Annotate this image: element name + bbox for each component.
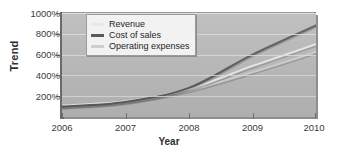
series-line-shadow bbox=[62, 53, 316, 108]
legend-item-cost-of-sales: Cost of sales bbox=[91, 30, 190, 40]
x-tick-mark bbox=[315, 113, 316, 119]
legend-label: Operating expenses bbox=[109, 41, 190, 51]
x-tick-label: 2009 bbox=[231, 122, 275, 133]
x-tick-label: 2006 bbox=[40, 122, 84, 133]
x-tick-mark bbox=[189, 113, 190, 119]
x-tick-label: 2010 bbox=[292, 122, 336, 133]
x-tick-mark bbox=[253, 113, 254, 119]
y-tick-label: 200% bbox=[12, 92, 60, 101]
gridline bbox=[62, 75, 316, 76]
legend-item-revenue: Revenue bbox=[91, 19, 190, 29]
line-chart: Trend 1000% 800% 600% 400% 200% Revenue bbox=[0, 0, 338, 163]
x-tick-mark bbox=[62, 113, 63, 119]
legend-swatch-icon bbox=[91, 34, 104, 37]
legend-label: Cost of sales bbox=[109, 30, 161, 40]
legend-swatch-icon bbox=[91, 23, 104, 26]
gridline bbox=[62, 96, 316, 97]
x-tick-label: 2007 bbox=[104, 122, 148, 133]
x-tick-mark bbox=[126, 113, 127, 119]
legend-label: Revenue bbox=[109, 19, 145, 29]
series-line-operating-expenses bbox=[62, 52, 316, 107]
y-tick-label: 600% bbox=[12, 50, 60, 59]
y-tick-label: 400% bbox=[12, 71, 60, 80]
legend-item-operating-expenses: Operating expenses bbox=[91, 41, 190, 51]
x-tick-label: 2008 bbox=[167, 122, 211, 133]
legend: Revenue Cost of sales Operating expenses bbox=[86, 14, 196, 56]
legend-swatch-icon bbox=[91, 45, 104, 48]
y-tick-label: 800% bbox=[12, 29, 60, 38]
y-tick-label: 1000% bbox=[12, 9, 60, 18]
x-axis-title: Year bbox=[0, 136, 338, 147]
